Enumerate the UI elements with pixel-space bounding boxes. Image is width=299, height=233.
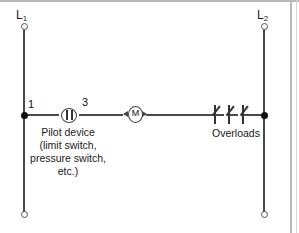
wire-segment-coil-to-overloads <box>146 114 210 116</box>
frame-right-border-outer <box>296 0 297 233</box>
overload-contacts-group <box>210 104 254 126</box>
wire-number-3: 3 <box>82 97 88 108</box>
motor-starter-coil-symbol: M <box>123 106 146 124</box>
overload-contact-2-slash <box>226 106 235 116</box>
terminal-l2-top <box>261 23 268 30</box>
coil-letter-m: M <box>128 109 143 118</box>
pilot-device-caption: Pilot device (limit switch, pressure swi… <box>8 126 128 178</box>
rail-label-l2: L2 <box>257 9 268 21</box>
overload-contact-3 <box>238 104 250 126</box>
power-rail-l1 <box>23 29 25 213</box>
rail-label-l1-subscript: 1 <box>23 14 27 23</box>
frame-top-border <box>0 0 299 2</box>
wire-segment-pilot-to-coil <box>79 114 123 116</box>
rail-label-l1-text: L <box>16 8 23 22</box>
overloads-caption: Overloads <box>203 127 269 140</box>
rail-label-l2-subscript: 2 <box>264 14 268 23</box>
overload-contact-2 <box>224 104 236 126</box>
overload-contact-3-bar <box>242 105 244 124</box>
pilot-device-contact-bar-right <box>71 110 73 120</box>
pilot-device-caption-line-2: (limit switch, <box>8 139 128 152</box>
ladder-diagram-canvas: L1 L2 1 3 M <box>0 0 299 233</box>
power-rail-l2 <box>263 29 265 213</box>
rail-label-l2-text: L <box>257 8 264 22</box>
terminal-l1-top <box>21 23 28 30</box>
pilot-device-caption-line-3: pressure switch, <box>8 152 128 165</box>
wire-segment-rail-to-pilot <box>23 114 59 116</box>
overload-contact-1-bar <box>214 105 216 124</box>
terminal-l2-bottom <box>261 211 268 218</box>
rail-label-l1: L1 <box>16 9 27 21</box>
pilot-device-contact-bar-left <box>66 110 68 120</box>
pilot-device-caption-line-4: etc.) <box>8 165 128 178</box>
overload-contact-3-slash <box>240 106 249 116</box>
junction-node-l2 <box>261 112 268 119</box>
overload-contact-1 <box>210 104 222 126</box>
overload-contact-1-slash <box>212 106 221 116</box>
coil-terminal-arrow-right <box>142 111 147 117</box>
pilot-device-caption-line-1: Pilot device <box>8 126 128 139</box>
pilot-device-symbol <box>59 108 79 123</box>
pilot-device-circle <box>61 108 77 123</box>
terminal-l1-bottom <box>21 211 28 218</box>
wire-number-1: 1 <box>28 99 34 110</box>
overload-contact-2-bar <box>228 105 230 124</box>
junction-node-l1 <box>21 112 28 119</box>
frame-right-border <box>290 0 292 233</box>
